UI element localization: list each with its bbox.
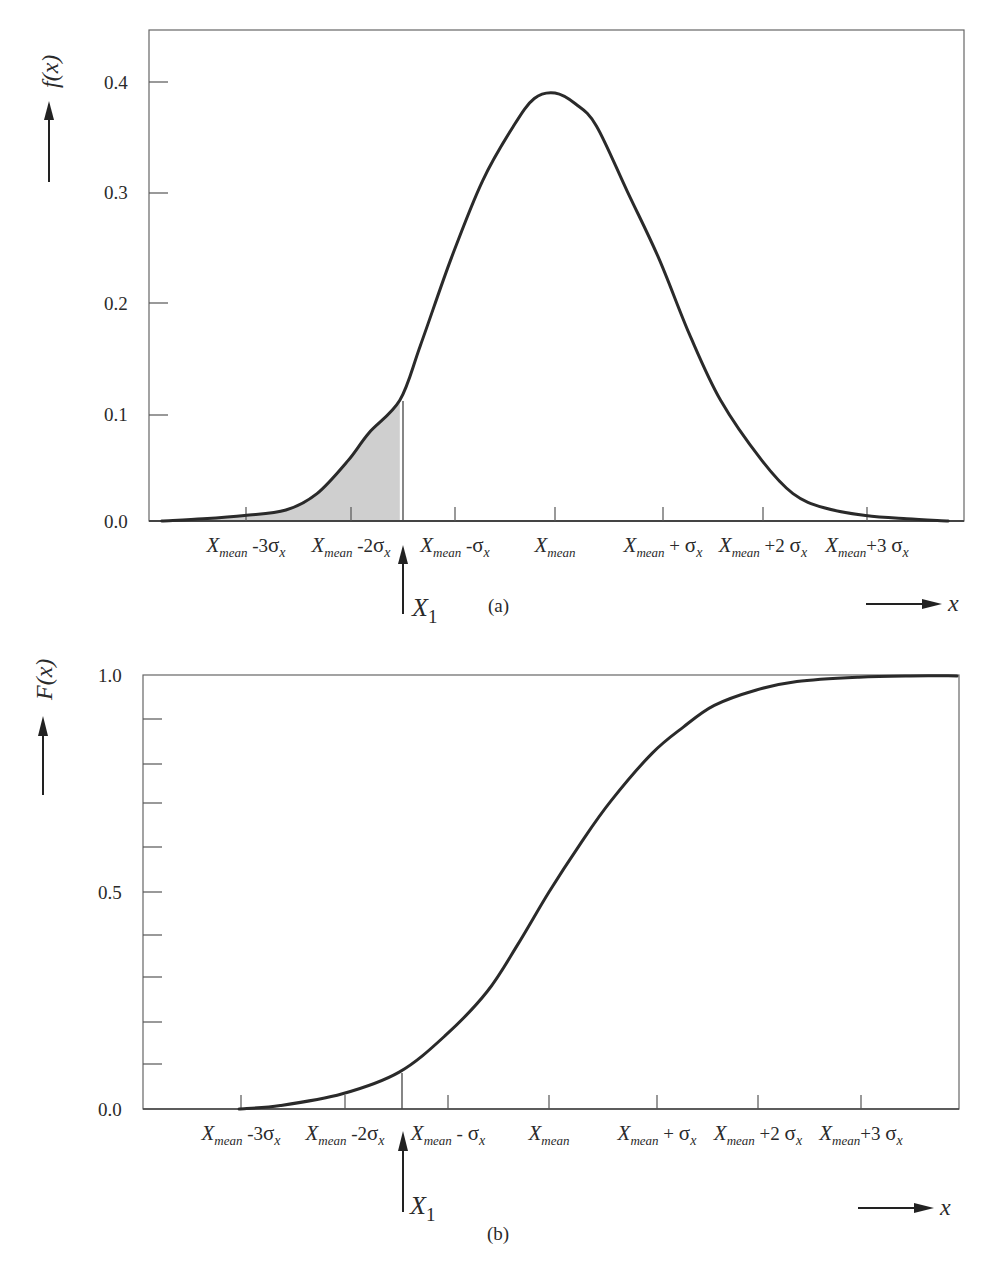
x1-arrowhead-icon: [398, 1131, 408, 1151]
xtick-label: Xmean +2 σx: [718, 533, 808, 560]
ytick-0.2: 0.2: [104, 293, 128, 314]
x-arrowhead-icon: [914, 1203, 934, 1213]
x1-label: X: [409, 1191, 427, 1220]
x1-marker: X1: [398, 545, 437, 627]
panel-a: 0.0 0.1 0.2 0.3 0.4 Xmean -3σxXmean -2σx…: [37, 30, 964, 627]
y-tick-labels: 0.0 0.1 0.2 0.3 0.4: [104, 72, 128, 532]
x-tick-labels: Xmean -3σxXmean -2σxXmean - σxXmeanXmean…: [200, 1121, 903, 1148]
svg-text:X1: X1: [411, 593, 437, 627]
plot-frame: [143, 675, 959, 1109]
xtick-label: Xmean: [528, 1121, 570, 1148]
xtick-label: Xmean -3σx: [200, 1121, 281, 1148]
plot-frame: [149, 30, 964, 521]
ytick-0.4: 0.4: [104, 72, 128, 93]
y-arrowhead-icon: [44, 101, 54, 120]
xtick-label: Xmean -2σx: [310, 533, 391, 560]
xtick-label: Xmean+3 σx: [824, 533, 909, 560]
ytick-0.0: 0.0: [98, 1099, 122, 1120]
xtick-label: Xmean + σx: [623, 533, 704, 560]
xtick-label: Xmean - σx: [410, 1121, 486, 1148]
cdf-curve: [239, 676, 957, 1109]
caption-a: (a): [488, 595, 509, 617]
ytick-0.0: 0.0: [104, 511, 128, 532]
y-axis-label: f(x): [37, 55, 63, 182]
pdf-curve: [162, 93, 949, 521]
xtick-label: Xmean -2σx: [304, 1121, 385, 1148]
y-tick-labels: 0.0 0.5 1.0: [98, 665, 122, 1120]
y-axis-label: F(x): [31, 659, 57, 795]
ylabel-F: F: [31, 685, 57, 701]
xlabel-a: x: [947, 590, 959, 616]
xlabel-b: x: [939, 1194, 951, 1220]
figure: 0.0 0.1 0.2 0.3 0.4 Xmean -3σxXmean -2σx…: [0, 0, 994, 1270]
y-arrowhead-icon: [38, 716, 48, 736]
y-ticks: [149, 82, 168, 415]
shaded-area-under-curve: [162, 400, 400, 521]
x-axis-label: x: [866, 590, 959, 616]
xtick-label: Xmean +2 σx: [713, 1121, 803, 1148]
y-ticks: [143, 719, 162, 1064]
xtick-label: Xmean + σx: [617, 1121, 698, 1148]
ylabel-arg: (x): [31, 659, 57, 686]
svg-text:f(x): f(x): [37, 55, 63, 88]
svg-text:X1: X1: [409, 1191, 435, 1225]
x1-label: X: [411, 593, 429, 622]
x-arrowhead-icon: [922, 599, 942, 609]
caption-b: (b): [487, 1223, 509, 1245]
x1-arrowhead-icon: [398, 545, 408, 564]
xtick-label: Xmean+3 σx: [818, 1121, 903, 1148]
ylabel-arg: (x): [37, 55, 63, 82]
svg-text:F(x): F(x): [31, 659, 57, 701]
x-tick-labels: Xmean -3σxXmean -2σxXmean -σxXmeanXmean …: [205, 533, 909, 560]
ytick-0.3: 0.3: [104, 182, 128, 203]
xtick-label: Xmean: [534, 533, 576, 560]
ytick-1.0: 1.0: [98, 665, 122, 686]
xtick-label: Xmean -3σx: [205, 533, 286, 560]
x-axis-label: x: [858, 1194, 951, 1220]
xtick-label: Xmean -σx: [419, 533, 490, 560]
panel-b: 0.0 0.5 1.0 Xmean -3σxXmean -2σxXmean - …: [31, 659, 959, 1245]
ytick-0.1: 0.1: [104, 404, 128, 425]
ytick-0.5: 0.5: [98, 882, 122, 903]
